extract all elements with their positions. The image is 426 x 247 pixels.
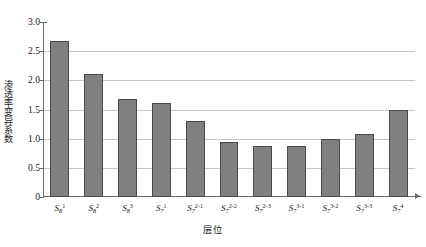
bar: [118, 99, 137, 197]
y-axis-tick-labels: 00.51.01.52.02.53.0: [14, 0, 40, 247]
bar: [355, 134, 374, 197]
y-tick-label: 3.0: [16, 17, 40, 27]
x-tick-label: S72-2: [221, 200, 237, 216]
bar: [253, 146, 272, 197]
bar: [186, 121, 205, 197]
x-tick-label: S82: [88, 200, 99, 216]
x-axis-arrow-icon: [415, 193, 420, 199]
y-tick-label: 0.5: [16, 163, 40, 173]
x-tick-label: S73-3: [356, 200, 372, 216]
y-axis-title: 渗透率变异系数: [1, 26, 15, 196]
x-tick-label: S81: [55, 200, 66, 216]
bar: [50, 41, 69, 197]
x-axis-tick-labels: S81S82S83S71S72-1S72-2S72-3S73-1S73-2S73…: [43, 200, 415, 218]
y-tick-label: 2.5: [16, 46, 40, 56]
plot-area: [43, 22, 415, 197]
bar: [152, 103, 171, 198]
y-tick-label: 0: [16, 192, 40, 202]
x-tick-label: S72-3: [255, 200, 271, 216]
y-tick-label: 1.5: [16, 105, 40, 115]
bar: [321, 139, 340, 197]
y-tick-label: 2.0: [16, 76, 40, 86]
y-tick-mark: [40, 197, 44, 198]
x-axis-title: 层位: [0, 222, 426, 236]
x-tick-label: S73-1: [289, 200, 305, 216]
bar: [389, 110, 408, 198]
bar: [220, 142, 239, 197]
x-tick-label: S73-2: [323, 200, 339, 216]
bar: [287, 146, 306, 197]
y-tick-label: 1.0: [16, 134, 40, 144]
bar: [84, 74, 103, 197]
permeability-variation-bar-chart: 渗透率变异系数 00.51.01.52.02.53.0 S81S82S83S71…: [0, 0, 426, 247]
x-tick-label: S71: [156, 200, 167, 216]
x-tick-label: S74: [393, 200, 404, 216]
x-tick-label: S83: [122, 200, 133, 216]
bar-series: [43, 22, 415, 197]
x-tick-label: S72-1: [187, 200, 203, 216]
